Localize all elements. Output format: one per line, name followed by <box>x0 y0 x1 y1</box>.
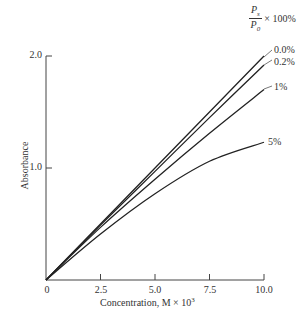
legend-title: Ps P0 × 100% <box>249 4 296 33</box>
chart-canvas <box>0 0 307 322</box>
series-label-1: 0.2% <box>274 56 295 67</box>
x-tick-0: 0 <box>32 284 62 295</box>
x-tick-4: 10.0 <box>249 284 279 295</box>
x-tick-1: 2.5 <box>86 284 116 295</box>
x-axis-label: Concentration, M × 103 <box>100 296 195 308</box>
x-tick-3: 7.5 <box>195 284 225 295</box>
x-tick-2: 5.0 <box>140 284 170 295</box>
y-tick-2: 2.0 <box>12 49 42 60</box>
series-label-0: 0.0% <box>274 44 295 55</box>
curve-5pct <box>46 142 264 280</box>
series-label-3: 5% <box>268 136 281 147</box>
y-axis-label: Absorbance <box>19 136 30 196</box>
series-label-2: 1% <box>274 81 287 92</box>
